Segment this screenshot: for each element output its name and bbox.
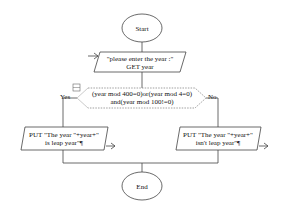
decision-node[interactable]: (year mod 400=0)or(year mod 4=0) and(yea… <box>77 88 206 108</box>
input-node[interactable]: "please enter the year :" GET year <box>94 52 186 72</box>
entry-arrow-icon <box>88 53 98 59</box>
no-branch-line <box>206 98 218 127</box>
output-yes-line2: is leap year"¶ <box>45 139 84 147</box>
flowchart: Start "please enter the year :" GET year… <box>0 0 286 215</box>
output-yes-arrow-icon <box>106 143 115 149</box>
yes-branch-line <box>63 98 77 127</box>
output-no-line2: isn't leap year"¶ <box>196 139 241 147</box>
start-node[interactable]: Start <box>122 14 162 42</box>
output-no-line1: PUT "The year "+year+" <box>183 131 253 139</box>
input-line1: "please enter the year :" <box>107 55 174 63</box>
output-yes-node[interactable]: PUT "The year "+year+" is leap year"¶ <box>21 127 108 150</box>
no-label: No <box>208 93 217 101</box>
end-label: End <box>136 183 148 191</box>
output-no-node[interactable]: PUT "The year "+year+" isn't leap year"¶ <box>176 127 261 150</box>
output-yes-line1: PUT "The year "+year+" <box>29 131 99 139</box>
start-label: Start <box>135 25 148 33</box>
end-node[interactable]: End <box>122 172 162 200</box>
decision-line2: and(year mod 100!=0) <box>110 98 174 106</box>
output-no-arrow-icon <box>259 143 268 149</box>
input-line2: GET year <box>126 63 154 71</box>
breakpoint-icon[interactable] <box>73 84 80 91</box>
decision-line1: (year mod 400=0)or(year mod 4=0) <box>92 90 193 98</box>
yes-label: Yes <box>60 93 70 101</box>
